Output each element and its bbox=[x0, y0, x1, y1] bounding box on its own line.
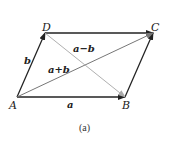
point-label-a: A bbox=[8, 99, 17, 112]
figure-caption: (a) bbox=[79, 122, 90, 134]
vector-b-arrow bbox=[17, 33, 45, 97]
parallelogram-diagram: D C A B a b a+b a−b (a) bbox=[0, 0, 173, 145]
edge-bc-arrow bbox=[125, 33, 153, 97]
vector-label-diff: a−b bbox=[73, 43, 95, 54]
point-label-b: B bbox=[121, 99, 130, 112]
vector-label-a: a bbox=[67, 99, 73, 110]
point-label-d: D bbox=[41, 21, 51, 34]
point-label-c: C bbox=[151, 21, 160, 34]
vector-label-sum: a+b bbox=[48, 64, 70, 75]
vector-label-b: b bbox=[24, 55, 31, 66]
